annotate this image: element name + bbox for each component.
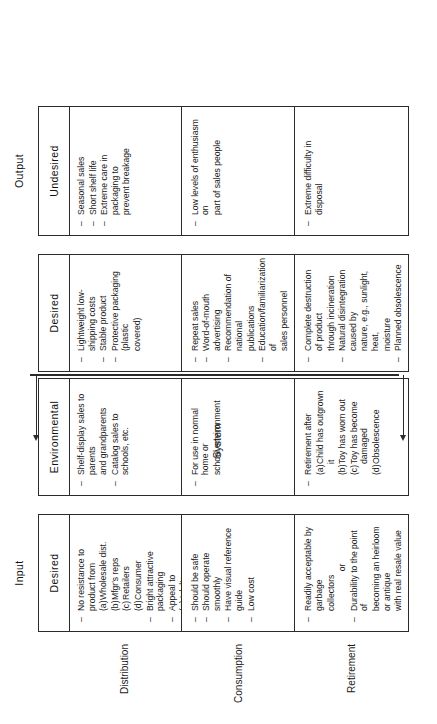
figure-rotation-wrapper: DistributionConsumptionRetirementInputDe… [0,0,437,724]
system-bracket-spine [30,374,399,375]
system-bracket: System [0,0,437,724]
system-arrow-head-2 [400,435,406,441]
system-label-text: System [211,424,223,459]
system-arrow-head-1 [33,435,39,441]
system-arrow-stem-1 [36,375,37,437]
matrix-grid: DistributionConsumptionRetirementInputDe… [0,0,437,724]
system-matrix-figure: DistributionConsumptionRetirementInputDe… [0,0,437,724]
system-arrow-stem-2 [403,375,404,437]
system-label: System [211,401,223,481]
